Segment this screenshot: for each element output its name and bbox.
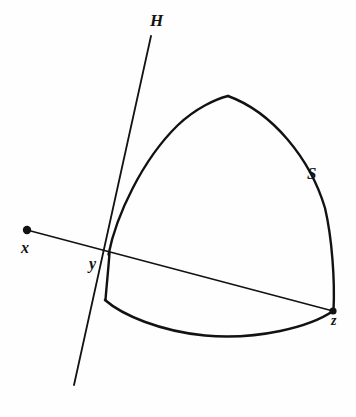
surface-left-edge-path [106,253,110,300]
point-x-dot [23,226,31,234]
label-point-x: x [21,240,29,256]
label-point-y: y [89,256,96,272]
surface-left-arc-path [109,96,229,255]
hyperplane-line-H [74,36,151,385]
label-hyperplane-h: H [150,12,163,29]
geometry-figure: H S x y z [0,0,356,417]
figure-canvas [0,0,356,417]
surface-right-arc-path [228,96,334,311]
surface-bottom-arc-path [105,300,333,336]
segment-x-to-z [27,230,333,311]
label-point-z: z [331,314,336,328]
label-surface-s: S [307,165,316,182]
